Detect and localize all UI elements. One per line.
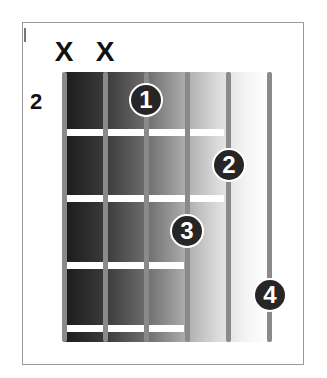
fret-line-3 <box>64 262 184 269</box>
finger-marker-3: 3 <box>170 214 204 248</box>
finger-marker-1: 1 <box>129 83 163 117</box>
string-4 <box>185 72 190 342</box>
string-1 <box>62 72 67 342</box>
fret-line-4 <box>64 325 184 332</box>
muted-string-marker: X <box>55 38 74 66</box>
string-5 <box>226 72 231 342</box>
starting-fret-number: 2 <box>30 89 42 115</box>
muted-string-marker: X <box>96 38 115 66</box>
frame-mark <box>24 28 26 42</box>
finger-marker-4: 4 <box>253 278 287 312</box>
fretboard <box>64 72 270 342</box>
string-2 <box>103 72 108 342</box>
finger-marker-2: 2 <box>212 148 246 182</box>
